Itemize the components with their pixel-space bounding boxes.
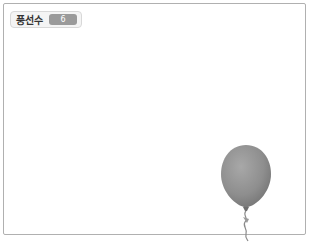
balloon-string-icon bbox=[244, 211, 248, 241]
monitor-label: 풍선수 bbox=[16, 12, 43, 27]
balloon-knot-icon bbox=[243, 207, 249, 211]
balloon-sprite[interactable] bbox=[218, 142, 274, 242]
variable-monitor: 풍선수 6 bbox=[10, 11, 82, 28]
monitor-value: 6 bbox=[49, 14, 77, 25]
balloon-body-icon bbox=[221, 145, 271, 207]
game-stage[interactable]: 풍선수 6 bbox=[3, 3, 306, 235]
